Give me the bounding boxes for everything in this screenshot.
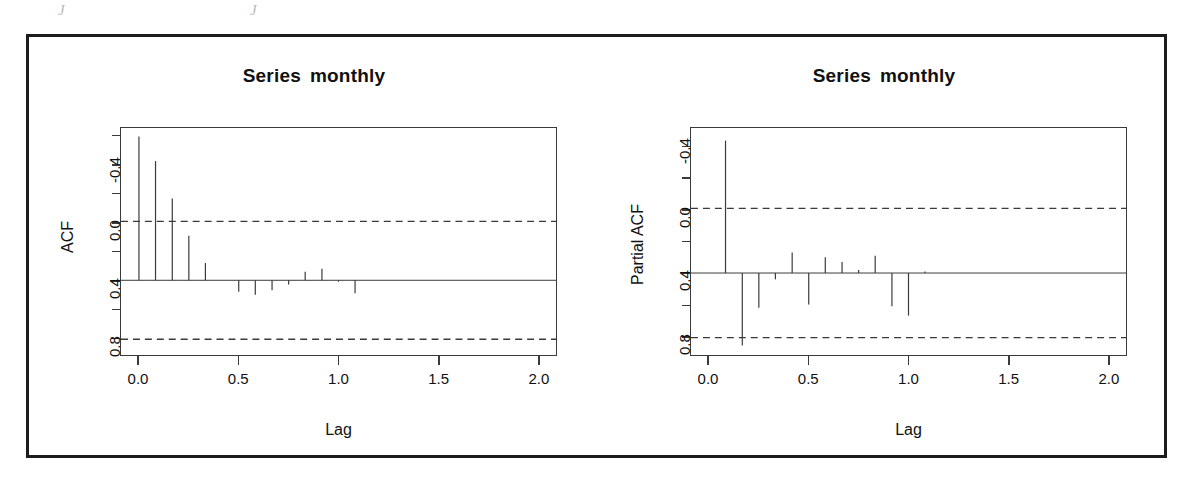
acf-plot-canvas: [121, 128, 556, 355]
x-tick: [908, 356, 909, 365]
acf-title-word2: monthly: [310, 65, 385, 86]
pacf-panel-title: Seriesmonthly: [599, 65, 1169, 87]
acf-panel: Seriesmonthly ACF Lag 0.80.40.0-0.40.00.…: [29, 37, 599, 461]
acf-plot-box: [120, 127, 557, 356]
y-tick-minor: [112, 193, 120, 194]
x-tick: [808, 356, 809, 365]
x-tick: [438, 356, 439, 365]
y-tick-label: 0.4: [106, 278, 123, 299]
y-tick-label: -0.4: [106, 157, 123, 183]
y-tick-label: 0.4: [676, 270, 693, 291]
x-tick-label: 1.5: [415, 370, 463, 387]
y-tick-minor: [682, 305, 690, 306]
x-tick-label: 2.0: [515, 370, 563, 387]
y-tick-label: 0.8: [106, 336, 123, 357]
y-tick-minor: [112, 309, 120, 310]
scan-artifact-right: J: [250, 2, 257, 19]
x-tick: [707, 356, 708, 365]
x-tick-label: 1.5: [985, 370, 1033, 387]
x-tick: [1108, 356, 1109, 365]
x-tick-label: 1.0: [315, 370, 363, 387]
x-tick: [1008, 356, 1009, 365]
y-tick-label: 0.8: [676, 334, 693, 355]
pacf-y-axis-label: Partial ACF: [629, 204, 647, 285]
acf-x-axis-label: Lag: [120, 421, 557, 439]
y-tick-minor: [112, 135, 120, 136]
x-tick-label: 0.0: [114, 370, 162, 387]
x-tick-label: 0.5: [784, 370, 832, 387]
figure-frame: Seriesmonthly ACF Lag 0.80.40.0-0.40.00.…: [26, 34, 1167, 458]
pacf-panel: Seriesmonthly Partial ACF Lag 0.80.40.0-…: [599, 37, 1169, 461]
y-tick-minor: [682, 241, 690, 242]
y-tick-label: 0.0: [106, 220, 123, 241]
x-tick-label: 2.0: [1085, 370, 1133, 387]
y-tick-minor: [682, 177, 690, 178]
x-tick-label: 0.5: [214, 370, 262, 387]
x-tick: [137, 356, 138, 365]
pacf-plot-box: [690, 127, 1127, 356]
y-tick-label: -0.4: [676, 138, 693, 164]
scan-artifact-left: J: [58, 2, 65, 19]
x-tick-label: 0.0: [684, 370, 732, 387]
pacf-plot-canvas: [691, 128, 1126, 355]
x-tick: [338, 356, 339, 365]
acf-panel-title: Seriesmonthly: [29, 65, 599, 87]
acf-y-axis-label: ACF: [59, 221, 77, 253]
pacf-title-word2: monthly: [880, 65, 955, 86]
acf-title-word1: Series: [243, 65, 301, 86]
x-tick-label: 1.0: [885, 370, 933, 387]
y-tick-label: 0.0: [676, 207, 693, 228]
x-tick: [238, 356, 239, 365]
pacf-x-axis-label: Lag: [690, 421, 1127, 439]
pacf-title-word1: Series: [813, 65, 871, 86]
x-tick: [538, 356, 539, 365]
y-tick-minor: [112, 251, 120, 252]
